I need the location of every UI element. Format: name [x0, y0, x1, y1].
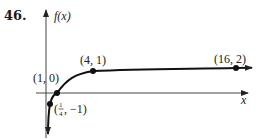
svg-text:(: (: [54, 102, 58, 116]
y-axis-label: f(x): [54, 9, 71, 23]
curve-down-arrow: [48, 104, 50, 134]
label-point-16-2: (16, 2): [214, 52, 246, 66]
x-axis-label: x: [240, 93, 247, 107]
function-curve: [50, 68, 236, 104]
fraction-denominator: 4: [59, 110, 63, 118]
problem-number: 46.: [4, 8, 27, 23]
svg-text:, −1): , −1): [64, 102, 87, 116]
label-point-1-0: (1, 0): [33, 71, 59, 85]
data-point: [47, 101, 53, 107]
fraction-numerator: 1: [59, 101, 63, 109]
label-point-4-1: (4, 1): [80, 53, 106, 67]
function-graph: 46. f(x) x (1, 0) (4, 1) (16, 2) ( 1 4 ,…: [0, 0, 272, 140]
data-point: [54, 90, 60, 96]
label-point-quarter-neg1: ( 1 4 , −1): [54, 101, 87, 118]
data-point: [90, 68, 96, 74]
